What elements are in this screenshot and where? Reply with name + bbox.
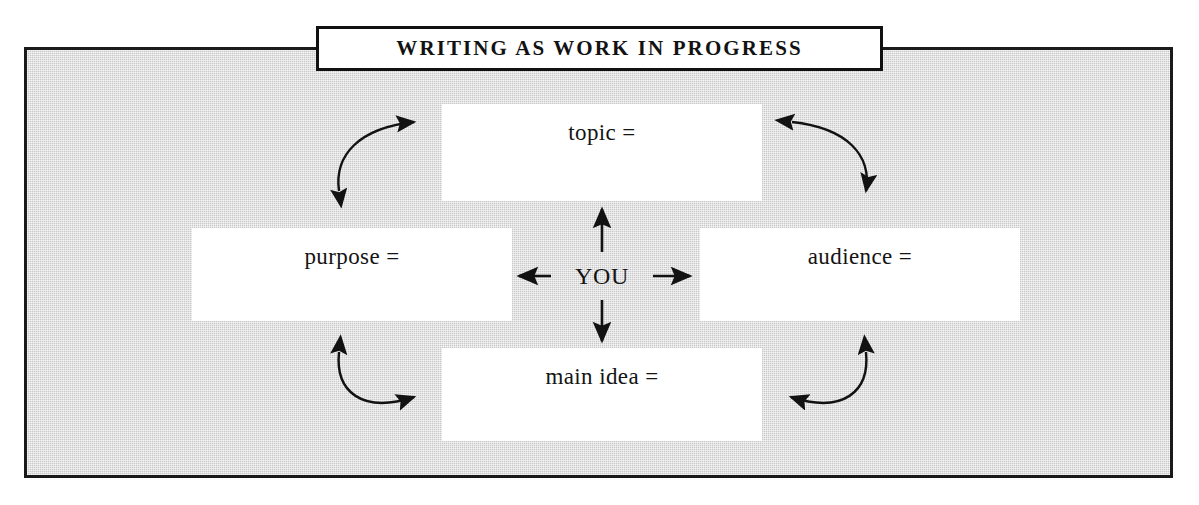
- box-purpose-label: purpose =: [192, 244, 512, 270]
- box-topic-label: topic =: [442, 120, 762, 146]
- writing-process-diagram: WRITING AS WORK IN PROGRESS topic = purp…: [0, 0, 1199, 505]
- box-main-idea: main idea =: [442, 348, 762, 441]
- box-audience: audience =: [700, 228, 1020, 321]
- box-audience-label: audience =: [700, 244, 1020, 270]
- center-node-you: YOU: [558, 260, 646, 292]
- box-topic: topic =: [442, 104, 762, 201]
- diagram-title-banner: WRITING AS WORK IN PROGRESS: [316, 26, 883, 71]
- page-title: WRITING AS WORK IN PROGRESS: [396, 38, 802, 59]
- box-main-idea-label: main idea =: [442, 364, 762, 390]
- box-purpose: purpose =: [192, 228, 512, 321]
